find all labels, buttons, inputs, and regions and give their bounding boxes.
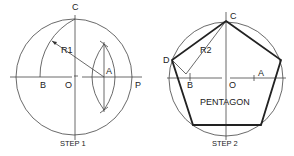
step2-label-d: D [163, 55, 170, 65]
step1-label-b: B [40, 80, 46, 90]
step2-caption: STEP 2 [212, 139, 238, 148]
pentagon-construction-diagram: C R1 A B O P STEP 1 C R2 D B O A PENTAGO… [0, 0, 294, 156]
step1-r1-radius [52, 41, 104, 77]
step1-label-a: A [106, 66, 112, 76]
step1-figure: C R1 A B O P STEP 1 [10, 2, 142, 148]
step2-label-o: O [229, 80, 236, 90]
step2-label-b: B [187, 80, 193, 90]
step2-figure: C R2 D B O A PENTAGON STEP 2 [163, 11, 286, 148]
step1-label-c: C [72, 2, 79, 12]
step2-label-r2: R2 [200, 45, 212, 55]
step2-label-a: A [258, 68, 264, 78]
step1-label-p: P [135, 80, 141, 90]
step1-label-r1: R1 [61, 45, 73, 55]
step1-label-o: O [65, 80, 72, 90]
step2-label-c: C [230, 11, 237, 21]
step1-caption: STEP 1 [60, 139, 86, 148]
pentagon-label: PENTAGON [200, 97, 250, 107]
